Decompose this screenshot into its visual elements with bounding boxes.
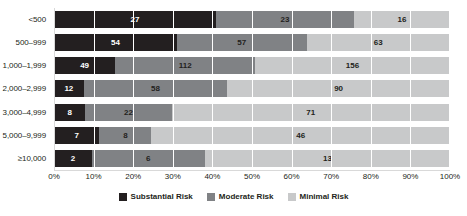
legend-label: Substantial Risk (131, 192, 193, 201)
x-axis-tick-label: 0% (48, 172, 60, 181)
bar-value-label: 71 (306, 108, 315, 117)
x-axis-tick-label: 70% (323, 172, 339, 181)
bar-value-label: 8 (67, 108, 71, 117)
bar-value-label: 6 (146, 154, 150, 163)
bar-value-label: 23 (281, 15, 290, 24)
bar-segment-minimal[interactable]: 16 (354, 11, 450, 28)
bar-row: 125890 (54, 77, 450, 100)
bar-value-label: 112 (179, 61, 192, 70)
bar-value-label: 16 (398, 15, 407, 24)
x-axis-tick-label: 100% (440, 172, 460, 181)
x-axis-tick-label: 60% (284, 172, 300, 181)
bar-segment-minimal[interactable]: 90 (227, 80, 450, 97)
bar-value-label: 2 (71, 154, 75, 163)
bar-segment-minimal[interactable]: 156 (255, 57, 450, 74)
bar-value-label: 63 (374, 38, 383, 47)
legend-item-moderate[interactable]: Moderate Risk (207, 192, 274, 201)
bar-row: 82271 (54, 101, 450, 124)
plot-area: 272316545763491121561258908227178462613 (54, 8, 450, 170)
bar-segment-minimal[interactable]: 46 (151, 127, 450, 144)
stacked-bar: 82271 (54, 104, 450, 121)
legend-swatch-minimal-icon (288, 193, 296, 201)
bar-value-label: 13 (323, 154, 332, 163)
bar-value-label: 90 (334, 84, 343, 93)
bar-segment-substantial[interactable]: 54 (54, 34, 177, 51)
bar-segment-minimal[interactable]: 63 (307, 34, 450, 51)
bar-value-label: 54 (111, 38, 120, 47)
bar-value-label: 57 (237, 38, 246, 47)
x-axis-line (54, 170, 450, 171)
x-axis-tick-label: 90% (402, 172, 418, 181)
chart-legend: Substantial RiskModerate RiskMinimal Ris… (0, 192, 467, 201)
stacked-bar: 2613 (54, 150, 450, 167)
bar-segment-moderate[interactable]: 58 (84, 80, 228, 97)
legend-swatch-moderate-icon (207, 193, 215, 201)
bar-row: 2613 (54, 147, 450, 170)
bar-segment-substantial[interactable]: 2 (54, 150, 92, 167)
stacked-bar: 272316 (54, 11, 450, 28)
bar-segment-substantial[interactable]: 7 (54, 127, 99, 144)
stacked-bar: 49112156 (54, 57, 450, 74)
bar-rows: 272316545763491121561258908227178462613 (54, 8, 450, 170)
bar-segment-substantial[interactable]: 27 (54, 11, 216, 28)
x-axis-tick-label: 50% (244, 172, 260, 181)
y-axis-category-labels: <500500–9991,000–1,9992,000–2,9993,000–4… (0, 8, 50, 170)
y-axis-category-label: ≥10,000 (0, 147, 50, 170)
bar-value-label: 49 (80, 61, 89, 70)
y-axis-category-label: 1,000–1,999 (0, 54, 50, 77)
bar-value-label: 7 (74, 131, 78, 140)
bar-segment-moderate[interactable]: 23 (216, 11, 354, 28)
bar-segment-moderate[interactable]: 22 (85, 104, 171, 121)
bar-value-label: 8 (123, 131, 127, 140)
bar-row: 7846 (54, 124, 450, 147)
bar-segment-substantial[interactable]: 49 (54, 57, 115, 74)
y-axis-category-label: 3,000–4,999 (0, 101, 50, 124)
x-axis-tick-label: 40% (204, 172, 220, 181)
bar-value-label: 22 (124, 108, 133, 117)
bar-value-label: 12 (64, 84, 73, 93)
bar-row: 545763 (54, 31, 450, 54)
bar-segment-minimal[interactable]: 13 (205, 150, 450, 167)
bar-segment-moderate[interactable]: 8 (99, 127, 151, 144)
bar-row: 49112156 (54, 54, 450, 77)
x-axis-tick-label: 20% (125, 172, 141, 181)
bar-row: 272316 (54, 8, 450, 31)
stacked-bar-chart: <500500–9991,000–1,9992,000–2,9993,000–4… (0, 0, 467, 216)
legend-swatch-substantial-icon (119, 193, 127, 201)
stacked-bar: 125890 (54, 80, 450, 97)
bar-value-label: 27 (131, 15, 140, 24)
bar-segment-moderate[interactable]: 112 (115, 57, 255, 74)
bar-value-label: 46 (296, 131, 305, 140)
x-axis-tick-label: 30% (165, 172, 181, 181)
legend-item-substantial[interactable]: Substantial Risk (119, 192, 193, 201)
y-axis-category-label: 5,000–9,999 (0, 124, 50, 147)
bar-value-label: 58 (151, 84, 160, 93)
y-axis-category-label: 500–999 (0, 31, 50, 54)
y-axis-category-label: <500 (0, 8, 50, 31)
stacked-bar: 545763 (54, 34, 450, 51)
bar-segment-substantial[interactable]: 8 (54, 104, 85, 121)
bar-value-label: 156 (346, 61, 359, 70)
bar-segment-minimal[interactable]: 71 (172, 104, 450, 121)
legend-label: Moderate Risk (219, 192, 274, 201)
x-axis-tick-label: 10% (86, 172, 102, 181)
stacked-bar: 7846 (54, 127, 450, 144)
legend-item-minimal[interactable]: Minimal Risk (288, 192, 349, 201)
bar-segment-substantial[interactable]: 12 (54, 80, 84, 97)
y-axis-category-label: 2,000–2,999 (0, 77, 50, 100)
bar-segment-moderate[interactable]: 57 (177, 34, 307, 51)
x-axis-tick-labels: 0%10%20%30%40%50%60%70%80%90%100% (54, 172, 450, 186)
x-axis-tick-label: 80% (363, 172, 379, 181)
legend-label: Minimal Risk (300, 192, 349, 201)
bar-segment-moderate[interactable]: 6 (92, 150, 205, 167)
